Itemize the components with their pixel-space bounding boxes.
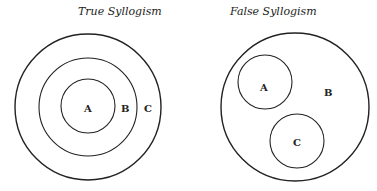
syllogism-diagrams: A B C A B C <box>0 0 377 191</box>
label-b: B <box>324 87 332 98</box>
true-syllogism-diagram: A B C <box>15 34 161 180</box>
label-c: C <box>293 137 301 148</box>
label-c: C <box>144 103 152 114</box>
label-a: A <box>83 103 92 114</box>
label-b: B <box>121 103 129 114</box>
label-a: A <box>259 82 268 93</box>
false-syllogism-diagram: A B C <box>221 33 369 181</box>
circle-b-outer <box>221 33 369 181</box>
